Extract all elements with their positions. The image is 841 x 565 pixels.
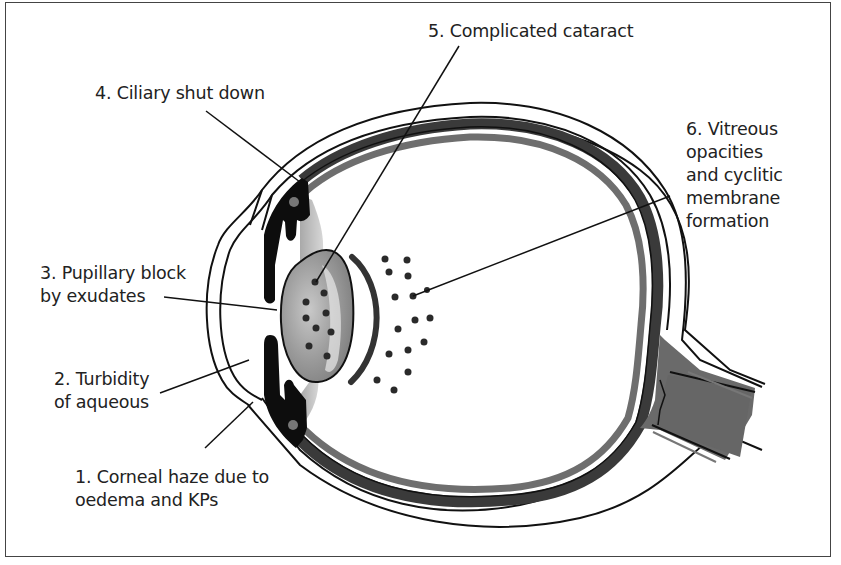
vitreous-opacity-dots [374, 256, 434, 394]
label-pupillary-block: 3. Pupillary block by exudates [40, 262, 186, 308]
leader-1 [205, 402, 253, 448]
label-complicated-cataract: 5. Complicated cataract [428, 20, 633, 43]
leader-5 [316, 46, 459, 282]
leader-4 [206, 111, 300, 182]
cornea-outer [207, 190, 262, 406]
leader-lines [160, 46, 670, 448]
label-ciliary-shut-down: 4. Ciliary shut down [95, 82, 265, 105]
leader-6 [413, 196, 670, 296]
cyclitic-membrane [351, 257, 377, 382]
label-vitreous-opacities: 6. Vitreous opacities and cyclitic membr… [686, 118, 783, 233]
retina-layer [305, 137, 643, 490]
label-turbidity-aqueous: 2. Turbidity of aqueous [54, 368, 149, 414]
leader-2 [160, 360, 249, 393]
lens [281, 250, 353, 382]
label-corneal-haze: 1. Corneal haze due to oedema and KPs [75, 466, 269, 512]
